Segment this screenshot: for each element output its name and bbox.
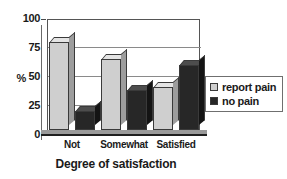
chart-legend: report pain no pain (205, 76, 283, 112)
bar-chart: % 100 75 50 25 0 (0, 0, 287, 179)
legend-swatch-icon-no-pain (210, 97, 218, 105)
legend-item-report-pain: report pain (210, 80, 279, 94)
bar-front-face (179, 65, 199, 130)
y-tick-label-100: 100 (14, 14, 40, 22)
y-tick-label-75: 75 (14, 43, 40, 51)
legend-label-report-pain: report pain (222, 81, 276, 93)
x-axis-title: Degree of satisfaction (28, 157, 204, 171)
x-tick-label-satisfied: Satisfied (151, 139, 201, 150)
bar-report-pain-not (49, 42, 69, 130)
bar-front-face (49, 42, 69, 130)
x-axis-line (41, 134, 207, 136)
legend-item-no-pain: no pain (210, 94, 279, 108)
y-tick-label-25: 25 (14, 101, 40, 109)
bar-report-pain-satisfied (153, 87, 173, 130)
y-tick-label-0: 0 (14, 130, 40, 138)
bar-front-face (127, 90, 147, 130)
x-tick-label-somewhat: Somewhat (97, 139, 151, 150)
bar-no-pain-satisfied (179, 65, 199, 130)
bar-front-face (153, 87, 173, 130)
bar-report-pain-somewhat (101, 59, 121, 130)
legend-label-no-pain: no pain (222, 95, 259, 107)
y-tick-mark-100 (41, 19, 46, 20)
bar-no-pain-somewhat (127, 90, 147, 130)
x-tick-label-not: Not (49, 139, 95, 150)
legend-swatch-icon-report-pain (210, 83, 218, 91)
bar-front-face (75, 111, 95, 130)
bar-no-pain-not (75, 111, 95, 130)
bar-front-face (101, 59, 121, 130)
y-tick-label-50: 50 (14, 72, 40, 80)
